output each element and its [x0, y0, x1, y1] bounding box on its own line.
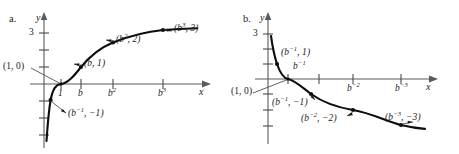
graph-panel-b: b. y x 3 b−1 b−2 b−3 (b−1, 1) (1, 0) (b−…: [229, 0, 459, 154]
panel-b-graphic: [229, 0, 459, 154]
point-bm1-1: [275, 62, 279, 66]
point-label-bm2-m2-b: (b−2, −2): [301, 114, 337, 124]
x-tick-label-bm3-b: b−3: [395, 84, 408, 94]
y-axis-label-a: y: [36, 13, 41, 23]
pt-bm2-rest: , −2): [317, 113, 337, 123]
pt-b2-rest: , 2): [128, 34, 141, 44]
pt-b3-rest: , 3): [186, 23, 199, 33]
x-tick-bm1-sup: −1: [298, 59, 306, 66]
pt-bm2-sup: −2: [309, 111, 317, 118]
point-label-b3-3-a: (b3, 3): [174, 24, 199, 34]
x-tick-label-1-a: 1: [58, 89, 63, 99]
pt-bm1-1-base: (b: [281, 47, 289, 57]
y-axis-a: [41, 12, 48, 148]
x-tick-bm2-sup: −2: [352, 81, 360, 88]
plotted-points-b: [275, 62, 403, 127]
point-label-b2-2-a: (b2, 2): [116, 35, 141, 45]
point-label-1-0-b: (1, 0): [231, 87, 252, 97]
x-tick-label-bm2-b: b−2: [347, 84, 360, 94]
pt-bm1-base-b: (b: [272, 97, 280, 107]
x-tick-bm3-sup: −3: [400, 81, 408, 88]
x-tick-label-b-a: b: [78, 89, 83, 99]
y-tick-label-3-b: 3: [253, 29, 258, 39]
plotted-points-a: [49, 28, 166, 102]
x-tick-b3-sup: 3: [163, 86, 166, 93]
leader-1-0: [253, 80, 287, 93]
point-b3-3: [161, 28, 165, 32]
leader-1-0: [31, 68, 60, 83]
point-label-bm1-1-b: (b−1, 1): [281, 48, 310, 58]
x-tick-label-bm1-b: b−1: [293, 62, 306, 72]
math-figure: a. y x 3 1 b b2 b3 (1, 0) (b, 1) (b2, 2)…: [0, 0, 459, 154]
log-curve-a: [47, 28, 198, 141]
y-axis-label-b: y: [260, 13, 265, 23]
pt-bm1-sup: −1: [76, 106, 84, 113]
point-label-bm1-m1-a: (b−1, −1): [68, 109, 104, 119]
pt-bm1-sup-b: −1: [280, 95, 288, 102]
pt-bm1-rest-b: , −1): [288, 97, 308, 107]
graph-panel-a: a. y x 3 1 b b2 b3 (1, 0) (b, 1) (b2, 2)…: [0, 0, 230, 154]
pt-b2-base: (b: [116, 34, 124, 44]
pt-b3-base: (b: [174, 23, 182, 33]
pt-bm2-base: (b: [301, 113, 309, 123]
panel-b-letter: b.: [243, 14, 251, 25]
point-1-0: [59, 82, 62, 85]
y-tick-label-3-a: 3: [29, 28, 34, 38]
x-tick-label-b2-a: b2: [108, 89, 116, 99]
pt-bm3-base: (b: [385, 112, 393, 122]
point-label-1-0-a: (1, 0): [3, 62, 24, 72]
pt-bm3-rest: , −3): [401, 112, 421, 122]
point-bm3-m3: [399, 123, 403, 127]
pt-bm1-rest: , −1): [84, 108, 104, 118]
pt-bm3-sup: −3: [393, 110, 401, 117]
y-axis-b: [265, 12, 272, 144]
point-label-bm1-m1-b: (b−1, −1): [272, 98, 308, 108]
point-label-b-1-a: (b, 1): [84, 59, 105, 69]
x-axis-label-b: x: [426, 82, 431, 92]
pt-bm1-1-sup: −1: [289, 45, 297, 52]
x-axis-label-a: x: [199, 87, 204, 97]
x-tick-b2-sup: 2: [113, 86, 116, 93]
pt-bm1-1-rest: , 1): [297, 47, 310, 57]
pt-bm1-base: (b: [68, 108, 76, 118]
panel-a-letter: a.: [9, 14, 17, 25]
point-label-bm3-m3-b: (b−3, −3): [385, 113, 421, 123]
x-tick-label-b3-a: b3: [158, 89, 166, 99]
